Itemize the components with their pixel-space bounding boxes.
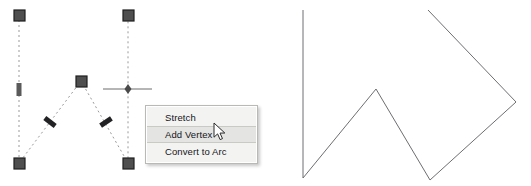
vertex-grip-top-right[interactable] — [123, 10, 134, 21]
left-editing-panel: Stretch Add Vertex Convert to Arc — [0, 0, 270, 186]
context-menu-inner: Stretch Add Vertex Convert to Arc — [146, 106, 257, 163]
midpoint-grip-left-diagonal[interactable] — [43, 116, 56, 128]
result-polyline — [303, 10, 516, 180]
menu-item-stretch-label: Stretch — [165, 112, 196, 123]
menu-item-convert-to-arc[interactable]: Convert to Arc — [147, 143, 256, 160]
vertex-grip-top-left[interactable] — [14, 10, 25, 21]
context-menu[interactable]: Stretch Add Vertex Convert to Arc — [145, 105, 258, 164]
right-result-panel — [270, 0, 531, 186]
midpoint-grip-right-diagonal[interactable] — [99, 116, 113, 127]
vertex-grip-bottom-left[interactable] — [14, 158, 25, 169]
midpoint-grip-left-vertical[interactable] — [17, 83, 22, 96]
right-drawing-canvas — [270, 0, 531, 186]
menu-item-stretch[interactable]: Stretch — [147, 109, 256, 126]
vertex-grip-apex[interactable] — [76, 76, 87, 87]
menu-item-add-vertex[interactable]: Add Vertex — [147, 126, 256, 143]
midpoint-grip-right-vertical[interactable] — [125, 84, 132, 94]
menu-item-convert-to-arc-label: Convert to Arc — [165, 146, 227, 157]
vertex-grip-bottom-right[interactable] — [123, 158, 134, 169]
menu-item-add-vertex-label: Add Vertex — [165, 129, 212, 140]
screenshot-stage: Stretch Add Vertex Convert to Arc — [0, 0, 531, 186]
